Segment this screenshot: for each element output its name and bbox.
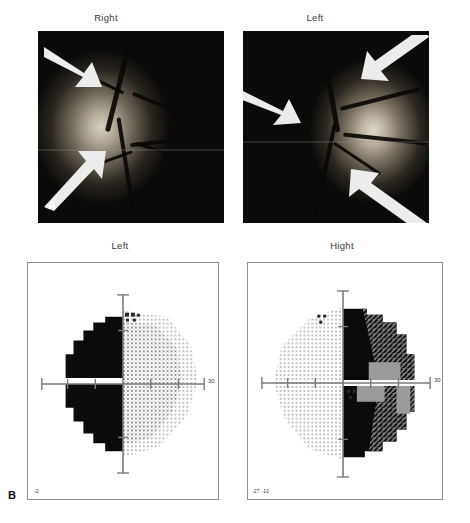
fundus-left-label: Left <box>275 12 355 23</box>
vf-left-graphic <box>28 263 218 499</box>
vf-left-corner-values: -2 <box>34 488 39 494</box>
vf-axes <box>42 295 204 473</box>
vf-left-axis-tick-30: 30 <box>208 378 215 384</box>
vf-right-axis-tick-30: 30 <box>434 377 441 383</box>
visual-field-plot-left: 30 -2 <box>27 262 219 500</box>
annotation-arrow <box>341 149 427 223</box>
fundus-photo-right: A <box>38 31 224 223</box>
vf-right-corner-values: -27 -10 <box>252 488 269 494</box>
vf-right-label: Hight <box>302 240 382 251</box>
fundus-photo-left <box>243 31 429 223</box>
figure-root: Right Left A <box>0 0 470 523</box>
panel-letter-b: B <box>8 489 16 501</box>
fundus-right-label: Right <box>66 12 146 23</box>
visual-field-plot-right: 30 -27 -10 <box>247 262 443 500</box>
scan-artifact-line <box>243 141 429 143</box>
annotation-arrow <box>243 81 321 133</box>
vf-right-graphic <box>248 263 442 499</box>
vf-left-label: Left <box>80 240 160 251</box>
panel-letter-a: A <box>48 199 56 211</box>
annotation-arrow <box>351 35 429 95</box>
annotation-arrow <box>44 43 120 105</box>
